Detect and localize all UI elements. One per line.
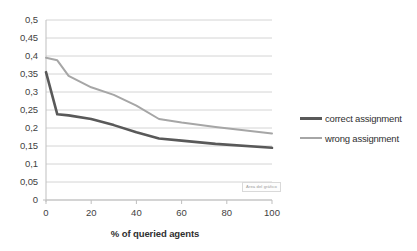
legend-item-correct-assignment: correct assignment <box>300 108 417 128</box>
chart-legend: correct assignment wrong assignment <box>300 108 417 148</box>
legend-swatch-wrong-icon <box>300 137 322 139</box>
x-tick-label: 100 <box>264 207 280 218</box>
x-tick-label: 0 <box>43 207 48 218</box>
legend-label-wrong: wrong assignment <box>325 133 399 144</box>
x-tick-label: 40 <box>131 207 142 218</box>
chart-area-tooltip: Área del gráfico <box>242 182 281 192</box>
legend-item-wrong-assignment: wrong assignment <box>300 128 417 148</box>
legend-label-correct: correct assignment <box>325 113 402 124</box>
x-axis-title: % of queried agents <box>0 228 310 239</box>
legend-swatch-correct-icon <box>300 117 322 120</box>
x-tick-label: 20 <box>86 207 97 218</box>
x-tick-label: 60 <box>176 207 187 218</box>
x-tick-label: 80 <box>222 207 233 218</box>
chart-container: 00,050,10,150,20,250,30,350,40,450,5 020… <box>0 0 417 251</box>
